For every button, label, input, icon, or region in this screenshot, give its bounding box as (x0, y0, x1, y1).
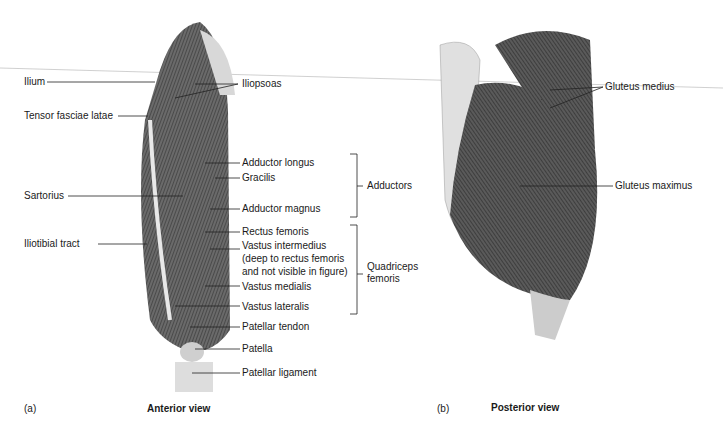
label-vastus-lateralis: Vastus lateralis (242, 301, 309, 313)
label-patellar-tendon: Patellar tendon (242, 321, 309, 333)
label-adductor-longus: Adductor longus (242, 157, 314, 169)
label-gluteus-maximus: Gluteus maximus (615, 180, 692, 192)
anatomy-illustration (0, 0, 723, 434)
panel-b-letter: (b) (437, 403, 449, 415)
label-vastus-intermedius-note-2: and not visible in figure) (242, 266, 348, 278)
panel-a-title: Anterior view (147, 403, 210, 415)
label-vastus-intermedius: Vastus intermedius (242, 240, 326, 252)
label-iliopsoas: Iliopsoas (242, 78, 281, 90)
label-femoris: femoris (367, 273, 400, 285)
panel-b-title: Posterior view (491, 402, 559, 414)
posterior-hip-figure (440, 31, 597, 340)
label-patellar-ligament: Patellar ligament (242, 367, 316, 379)
label-vastus-intermedius-note-1: (deep to rectus femoris (242, 253, 344, 265)
label-rectus-femoris: Rectus femoris (242, 226, 309, 238)
label-gluteus-medius: Gluteus medius (605, 81, 674, 93)
label-patella: Patella (242, 343, 273, 355)
anterior-thigh-figure (141, 22, 235, 392)
label-vastus-medialis: Vastus medialis (242, 281, 311, 293)
label-adductors: Adductors (367, 180, 412, 192)
label-iliotibial-tract: Iliotibial tract (24, 238, 80, 250)
label-adductor-magnus: Adductor magnus (242, 203, 320, 215)
label-tensor-fasciae-latae: Tensor fasciae latae (24, 110, 113, 122)
label-sartorius: Sartorius (24, 190, 64, 202)
label-ilium: Ilium (24, 76, 45, 88)
panel-a-letter: (a) (24, 403, 36, 415)
label-quadriceps: Quadriceps (367, 261, 418, 273)
label-gracilis: Gracilis (242, 172, 275, 184)
